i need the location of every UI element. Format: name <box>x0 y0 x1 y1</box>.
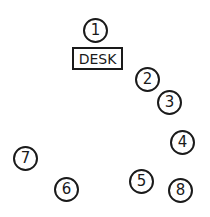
seat-7: 7 <box>13 146 38 171</box>
seat-1: 1 <box>83 18 108 43</box>
seat-3: 3 <box>157 90 182 115</box>
seat-2: 2 <box>135 67 160 92</box>
seat-4: 4 <box>170 130 195 155</box>
seating-diagram: DESK 1 2 3 4 5 6 7 8 <box>0 0 210 217</box>
seat-6: 6 <box>54 177 79 202</box>
seat-5: 5 <box>129 169 154 194</box>
seat-8: 8 <box>168 178 193 203</box>
desk: DESK <box>72 47 123 70</box>
